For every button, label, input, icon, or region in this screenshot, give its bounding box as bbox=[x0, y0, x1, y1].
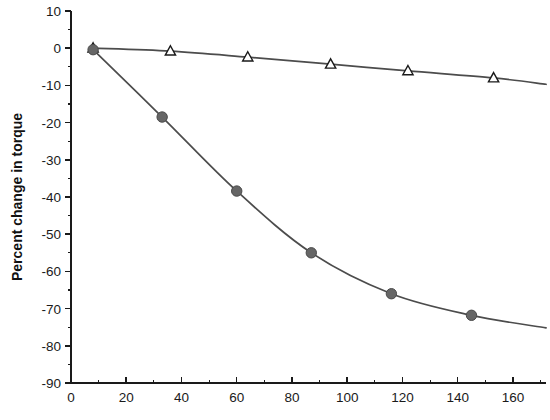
tick-labels-group: 100-10-20-30-40-50-60-70-80-900204060801… bbox=[41, 4, 524, 405]
x-tick-label-40: 40 bbox=[174, 390, 189, 405]
y-tick-label--10: -10 bbox=[41, 78, 61, 93]
x-tick-label-80: 80 bbox=[284, 390, 299, 405]
series-line-filled-circle-series bbox=[93, 50, 546, 328]
y-tick-label--80: -80 bbox=[41, 339, 61, 354]
y-tick-label--70: -70 bbox=[41, 302, 61, 317]
y-tick-label--90: -90 bbox=[41, 376, 61, 391]
x-tick-label-120: 120 bbox=[391, 390, 414, 405]
plot-canvas: 100-10-20-30-40-50-60-70-80-900204060801… bbox=[0, 0, 550, 420]
series-line-open-triangle-series bbox=[93, 48, 546, 84]
x-tick-label-0: 0 bbox=[67, 390, 75, 405]
y-tick-label--20: -20 bbox=[41, 116, 61, 131]
data-point-circle bbox=[88, 44, 98, 54]
data-point-circle bbox=[306, 248, 316, 258]
minor-ticks-group bbox=[68, 30, 541, 383]
y-tick-label--40: -40 bbox=[41, 190, 61, 205]
series-open-triangle-series bbox=[88, 43, 546, 84]
x-tick-label-100: 100 bbox=[336, 390, 359, 405]
y-tick-label-0: 0 bbox=[53, 41, 61, 56]
y-tick-label-10: 10 bbox=[46, 4, 61, 19]
axis-lines-group bbox=[71, 11, 546, 383]
x-tick-label-140: 140 bbox=[446, 390, 469, 405]
data-point-circle bbox=[232, 186, 242, 196]
data-point-circle bbox=[386, 289, 396, 299]
y-tick-label--60: -60 bbox=[41, 264, 61, 279]
major-ticks-group bbox=[65, 11, 513, 383]
data-point-circle bbox=[466, 310, 476, 320]
data-point-circle bbox=[157, 112, 167, 122]
y-axis-title: Percent change in torque bbox=[9, 113, 25, 281]
data-series-group bbox=[88, 43, 546, 328]
series-filled-circle-series bbox=[88, 44, 546, 327]
y-tick-label--50: -50 bbox=[41, 227, 61, 242]
y-tick-label--30: -30 bbox=[41, 153, 61, 168]
x-tick-label-20: 20 bbox=[119, 390, 134, 405]
chart-figure: 100-10-20-30-40-50-60-70-80-900204060801… bbox=[0, 0, 550, 420]
x-tick-label-160: 160 bbox=[502, 390, 525, 405]
x-tick-label-60: 60 bbox=[229, 390, 244, 405]
